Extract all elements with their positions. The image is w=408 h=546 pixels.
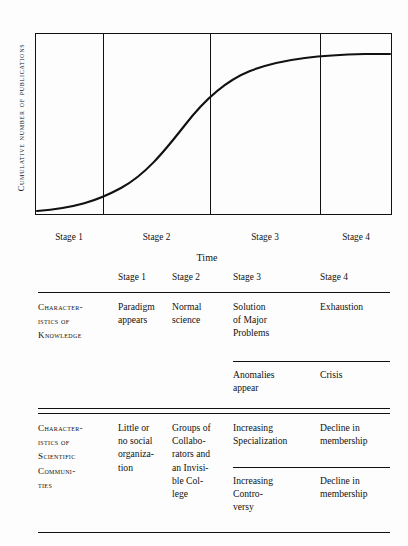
table-rule-top	[38, 292, 390, 293]
table-rule-bottom	[38, 532, 390, 533]
cell-line: rators and	[172, 447, 232, 460]
chart-stage-label-3: Stage 3	[210, 232, 320, 242]
cell-communities-controversy-stage3: Increasing Contro- versy	[233, 474, 321, 514]
cell-line: Crisis	[320, 368, 390, 381]
row-label-knowledge-line-2: istics of	[38, 314, 116, 328]
table-col-header-stage-3: Stage 3	[233, 272, 261, 282]
cell-knowledge-anomalies-stage4: Crisis	[320, 368, 390, 381]
cell-line: of Major	[233, 313, 318, 326]
characteristics-table: Stage 1 Stage 2 Stage 3 Stage 4 Characte…	[0, 268, 408, 546]
cell-line: appear	[233, 381, 318, 394]
table-rule-section-divider	[38, 408, 390, 414]
row-label-sc-line-3: Scientific	[38, 449, 116, 463]
cell-knowledge-stage1: Paradigm appears	[118, 300, 174, 326]
cell-line: Specialization	[233, 434, 321, 447]
table-col-header-stage-1: Stage 1	[118, 272, 146, 282]
cell-communities-stage2: Groups of Collabo- rators and an Invisi-…	[172, 421, 232, 500]
chart-area: Cumulative number of publications Stage …	[0, 0, 408, 268]
growth-curve	[35, 33, 392, 215]
chart-stage-label-1: Stage 1	[35, 232, 103, 242]
x-axis-label-text: Time	[197, 252, 218, 263]
cell-communities-stage1: Little or no social organiza- tion	[118, 421, 174, 474]
figure-page: Cumulative number of publications Stage …	[0, 0, 408, 546]
cell-line: tion	[118, 461, 174, 474]
cell-line: versy	[233, 500, 321, 513]
cell-line: Paradigm	[118, 300, 174, 313]
cell-line: membership	[320, 487, 392, 500]
row-label-knowledge-line-3: Knowledge	[38, 328, 116, 342]
row-label-sc-line-2: istics of	[38, 435, 116, 449]
cell-line: Little or	[118, 421, 174, 434]
cell-knowledge-stage3: Solution of Major Problems	[233, 300, 318, 340]
row-label-sc-line-4: Communi-	[38, 464, 116, 478]
cell-line: an Invisi-	[172, 461, 232, 474]
cell-line: Collabo-	[172, 434, 232, 447]
cell-line: Increasing	[233, 474, 321, 487]
cell-line: Solution	[233, 300, 318, 313]
cell-line: no social	[118, 434, 174, 447]
x-axis-label: Time	[0, 252, 408, 263]
cell-line: Contro-	[233, 487, 321, 500]
row-label-knowledge-line-1: Character-	[38, 300, 116, 314]
row-label-scientific-communities: Character- istics of Scientific Communi-…	[38, 421, 116, 492]
cell-knowledge-anomalies-stage3: Anomalies appear	[233, 368, 318, 394]
row-label-sc-line-5: ties	[38, 478, 116, 492]
row-label-knowledge: Character- istics of Knowledge	[38, 300, 116, 343]
cell-line: Anomalies	[233, 368, 318, 381]
cell-line: Increasing	[233, 421, 321, 434]
cell-line: organiza-	[118, 447, 174, 460]
chart-stage-label-2: Stage 2	[103, 232, 210, 242]
table-col-header-stage-2: Stage 2	[172, 272, 200, 282]
y-axis-label: Cumulative number of publications	[17, 18, 26, 218]
cell-communities-stage3: Increasing Specialization	[233, 421, 321, 447]
row-label-sc-line-1: Character-	[38, 421, 116, 435]
cell-line: Exhaustion	[320, 300, 390, 313]
table-rule-anomalies	[233, 361, 390, 362]
cell-line: ble Col-	[172, 474, 232, 487]
cell-communities-controversy-stage4: Decline in membership	[320, 474, 392, 500]
cell-line: Groups of	[172, 421, 232, 434]
table-col-header-stage-4: Stage 4	[320, 272, 348, 282]
cell-knowledge-stage4: Exhaustion	[320, 300, 390, 313]
table-rule-controversy	[233, 467, 390, 468]
cell-communities-stage4: Decline in membership	[320, 421, 392, 447]
cell-line: Normal	[172, 300, 230, 313]
cell-line: appears	[118, 313, 174, 326]
cell-line: Decline in	[320, 421, 392, 434]
cell-line: Decline in	[320, 474, 392, 487]
cell-line: Problems	[233, 326, 318, 339]
chart-stage-label-4: Stage 4	[320, 232, 392, 242]
cell-line: lege	[172, 487, 232, 500]
cell-line: membership	[320, 434, 392, 447]
cell-line: science	[172, 313, 230, 326]
cell-knowledge-stage2: Normal science	[172, 300, 230, 326]
